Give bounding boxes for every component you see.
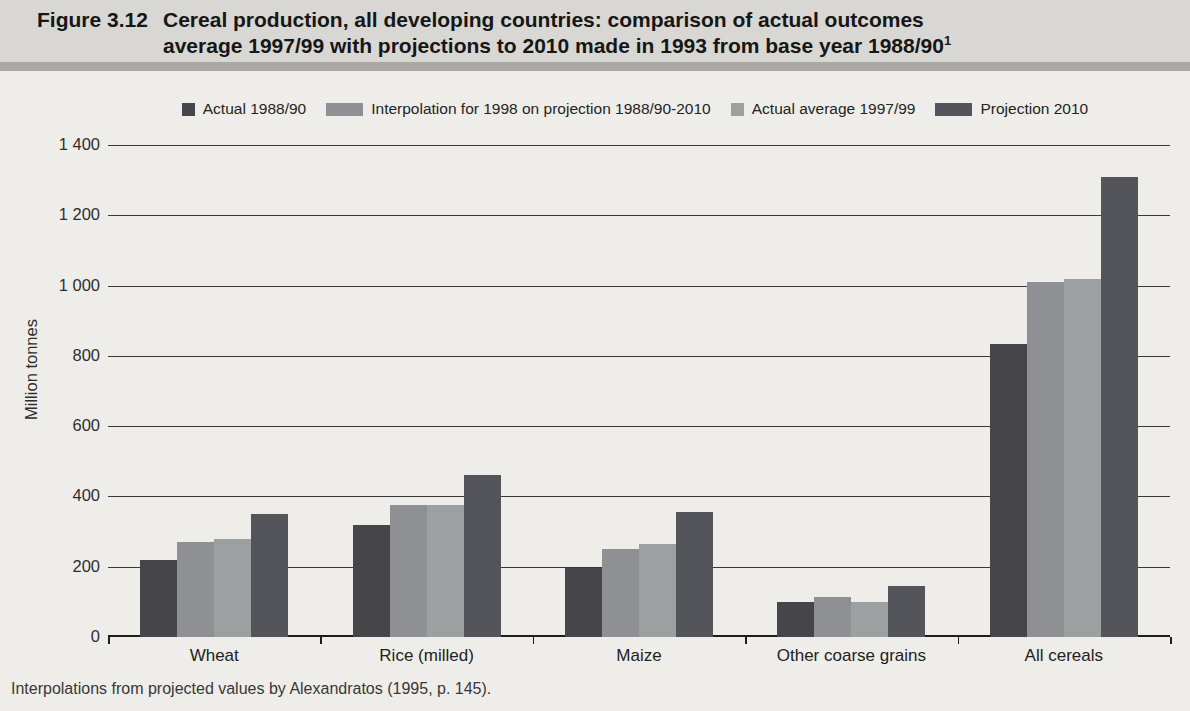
figure-title-line1: Cereal production, all developing countr…: [163, 7, 951, 33]
y-tick-label-800: 800: [18, 346, 100, 365]
scanned-report-page: Figure 3.12 Cereal production, all devel…: [0, 0, 1190, 711]
category-label-other-coarse-grains: Other coarse grains: [745, 646, 957, 666]
bar-series3: [851, 602, 888, 637]
bar-series3: [214, 539, 251, 637]
bar-series2: [1027, 282, 1064, 637]
y-tick-label-600: 600: [18, 416, 100, 435]
y-tick-label-400: 400: [18, 486, 100, 505]
legend-label: Projection 2010: [980, 100, 1088, 118]
bar-group-other-coarse-grains: [745, 145, 957, 637]
bar-series4: [888, 586, 925, 637]
figure-title: Cereal production, all developing countr…: [163, 7, 951, 59]
chart-legend: Actual 1988/90Interpolation for 1998 on …: [100, 100, 1170, 118]
y-tick-label-1200: 1 200: [18, 205, 100, 224]
bar-series3: [1064, 279, 1101, 637]
legend-label: Actual 1988/90: [203, 100, 306, 118]
bar-group-all-cereals: [958, 145, 1170, 637]
bar-series4: [1101, 177, 1138, 637]
bar-series1: [565, 568, 602, 637]
plot-area: [108, 145, 1170, 637]
bar-series4: [464, 475, 501, 637]
bar-group-maize: [533, 145, 745, 637]
bar-series2: [602, 549, 639, 637]
bar-series4: [676, 512, 713, 637]
legend-item-1: Interpolation for 1998 on projection 198…: [326, 100, 711, 118]
legend-item-2: Actual average 1997/99: [731, 100, 916, 118]
bar-series1: [777, 602, 814, 637]
category-label-maize: Maize: [533, 646, 745, 666]
x-axis-tick: [533, 637, 535, 644]
legend-item-3: Projection 2010: [935, 100, 1088, 118]
source-caption: Interpolations from projected values by …: [11, 680, 491, 698]
legend-label: Actual average 1997/99: [752, 100, 916, 118]
bar-series3: [427, 505, 464, 637]
bar-series2: [390, 505, 427, 637]
y-tick-label-1000: 1 000: [18, 276, 100, 295]
x-axis-tick: [108, 637, 110, 644]
x-axis-tick: [320, 637, 322, 644]
bar-series1: [353, 525, 390, 637]
bar-group-rice-milled-: [320, 145, 532, 637]
legend-swatch-icon: [326, 103, 363, 116]
figure-header: Figure 3.12 Cereal production, all devel…: [0, 0, 1190, 62]
figure-number: Figure 3.12: [37, 7, 163, 33]
x-axis-tick: [745, 637, 747, 644]
x-axis-tick: [958, 637, 960, 644]
bar-series1: [990, 344, 1027, 637]
figure-title-line2: average 1997/99 with projections to 2010…: [163, 33, 951, 59]
bar-series4: [251, 514, 288, 637]
y-tick-label-1400: 1 400: [18, 135, 100, 154]
legend-swatch-icon: [182, 103, 195, 116]
bar-series1: [140, 560, 177, 637]
bar-series3: [639, 544, 676, 637]
category-label-wheat: Wheat: [108, 646, 320, 666]
legend-label: Interpolation for 1998 on projection 198…: [371, 100, 711, 118]
y-tick-label-200: 200: [18, 557, 100, 576]
legend-item-0: Actual 1988/90: [182, 100, 306, 118]
category-label-rice-milled-: Rice (milled): [320, 646, 532, 666]
legend-swatch-icon: [935, 103, 972, 116]
bar-group-wheat: [108, 145, 320, 637]
header-separator-rule: [0, 62, 1190, 71]
bar-series2: [177, 542, 214, 637]
legend-swatch-icon: [731, 103, 744, 116]
footnote-marker: 1: [944, 33, 951, 48]
y-tick-label-0: 0: [18, 627, 100, 646]
category-label-all-cereals: All cereals: [958, 646, 1170, 666]
x-axis-tick: [1170, 637, 1172, 644]
bar-series2: [814, 597, 851, 637]
